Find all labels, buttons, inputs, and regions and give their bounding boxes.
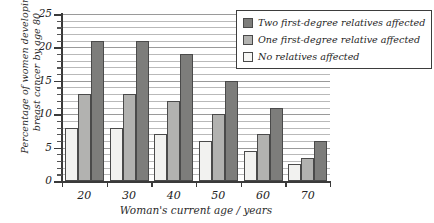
legend-swatch-two-relatives: [243, 18, 253, 28]
legend-label-no-relatives: No relatives affected: [258, 51, 360, 63]
legend-swatch-no-relatives: [243, 52, 253, 62]
bar: [167, 101, 180, 181]
bar: [199, 141, 212, 181]
y-tick-minor: [57, 134, 62, 135]
y-tick-label: 10: [28, 107, 52, 119]
y-tick-label: 5: [28, 141, 52, 153]
bar: [225, 81, 238, 181]
y-tick-minor: [57, 61, 62, 62]
y-tick-minor: [57, 67, 62, 68]
x-tick: [107, 181, 108, 187]
y-tick-major: [54, 181, 62, 183]
bar-group: [151, 14, 196, 181]
x-tick-label: 20: [64, 189, 104, 202]
y-tick-minor: [57, 174, 62, 175]
y-tick-minor: [57, 54, 62, 55]
y-tick-major: [54, 14, 62, 16]
bar: [154, 134, 167, 181]
x-tick: [151, 181, 152, 187]
x-axis-title: Woman's current age / years: [62, 204, 330, 216]
bar: [314, 141, 327, 181]
y-tick-minor: [57, 41, 62, 42]
x-tick: [285, 181, 286, 187]
y-tick-minor: [57, 74, 62, 75]
y-axis-line: [61, 13, 63, 182]
y-tick-major: [54, 81, 62, 83]
bar: [180, 54, 193, 181]
y-tick-minor: [57, 21, 62, 22]
bar: [78, 94, 91, 181]
y-tick-minor: [57, 87, 62, 88]
y-tick-major: [54, 47, 62, 49]
legend-item-no-relatives: No relatives affected: [243, 50, 425, 63]
y-tick-minor: [57, 27, 62, 28]
y-tick-major: [54, 114, 62, 116]
bar-group: [196, 14, 241, 181]
x-tick-label: 70: [288, 189, 328, 202]
bar: [212, 114, 225, 181]
y-tick-minor: [57, 101, 62, 102]
legend-label-two-relatives: Two first-degree relatives affected: [258, 17, 425, 29]
y-tick-label: 20: [28, 40, 52, 52]
bar-group: [62, 14, 107, 181]
x-tick: [241, 181, 242, 187]
bar-chart-figure: Percentage of women developing breast ca…: [0, 0, 434, 223]
bar: [91, 41, 104, 181]
y-tick-label: 15: [28, 74, 52, 86]
bar: [270, 108, 283, 181]
legend-item-two-relatives: Two first-degree relatives affected: [243, 16, 425, 29]
x-tick: [330, 181, 331, 187]
x-tick: [62, 181, 63, 187]
bar-group: [107, 14, 152, 181]
x-tick-label: 50: [198, 189, 238, 202]
bar: [301, 158, 314, 181]
y-tick-minor: [57, 154, 62, 155]
bar: [110, 128, 123, 181]
x-tick-label: 40: [154, 189, 194, 202]
y-tick-minor: [57, 108, 62, 109]
bar: [65, 128, 78, 181]
legend-swatch-one-relative: [243, 35, 253, 45]
bar: [244, 151, 257, 181]
y-tick-minor: [57, 121, 62, 122]
legend: Two first-degree relatives affected One …: [236, 10, 432, 69]
y-tick-major: [54, 148, 62, 150]
bar: [123, 94, 136, 181]
y-tick-label: 0: [28, 174, 52, 186]
bar: [136, 41, 149, 181]
legend-label-one-relative: One first-degree relative affected: [258, 34, 420, 46]
y-tick-minor: [57, 34, 62, 35]
y-tick-minor: [57, 128, 62, 129]
legend-item-one-relative: One first-degree relative affected: [243, 33, 425, 46]
x-tick: [196, 181, 197, 187]
y-tick-minor: [57, 161, 62, 162]
y-tick-label: 25: [28, 7, 52, 19]
y-tick-minor: [57, 141, 62, 142]
x-tick-label: 30: [109, 189, 149, 202]
bar: [257, 134, 270, 181]
x-tick-label: 60: [243, 189, 283, 202]
y-tick-minor: [57, 94, 62, 95]
bar: [288, 164, 301, 181]
y-tick-minor: [57, 168, 62, 169]
